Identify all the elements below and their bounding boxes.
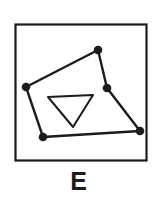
vertex-dot-top <box>94 46 103 55</box>
figure-border <box>16 25 147 161</box>
vertex-dot-bottom-right <box>136 127 145 136</box>
geometry-figure <box>0 0 157 199</box>
vertex-dot-left <box>22 83 31 92</box>
vertex-dot-right-mid <box>103 84 112 93</box>
figure-panel: E <box>0 0 157 199</box>
vertex-dot-bottom-left <box>39 133 48 142</box>
